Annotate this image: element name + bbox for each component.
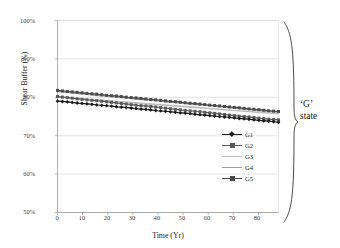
legend-label-g5: G5 bbox=[245, 174, 253, 183]
g-state-line2: state bbox=[300, 111, 340, 123]
legend-label-g3: G3 bbox=[245, 152, 253, 161]
g-state-line1: ‘G’ bbox=[300, 99, 340, 111]
legend-label-g1: G1 bbox=[245, 130, 253, 139]
legend-key-g2-icon bbox=[222, 141, 242, 150]
chart-figure: Shear Buffer (%) 100% 90% 80% 70% 60% 50… bbox=[0, 0, 340, 248]
legend-item-g1[interactable]: G1 bbox=[222, 129, 276, 140]
legend-label-g4: G4 bbox=[245, 163, 253, 172]
plot-area bbox=[0, 0, 340, 248]
legend-item-g3[interactable]: G3 bbox=[222, 151, 276, 162]
legend-item-g4[interactable]: G4 bbox=[222, 162, 276, 173]
brace-annotation bbox=[284, 22, 298, 222]
legend-key-g5-icon bbox=[222, 174, 242, 183]
legend-label-g2: G2 bbox=[245, 141, 253, 150]
legend-item-g5[interactable]: G5 bbox=[222, 173, 276, 184]
series-lines bbox=[56, 89, 281, 124]
g-state-annotation: ‘G’ state bbox=[300, 99, 340, 122]
legend-key-g3-icon bbox=[222, 152, 242, 161]
legend-key-g1-icon bbox=[222, 130, 242, 139]
legend-key-g4-icon bbox=[222, 163, 242, 172]
chart-legend: G1G2G3G4G5 bbox=[222, 129, 276, 184]
legend-item-g2[interactable]: G2 bbox=[222, 140, 276, 151]
